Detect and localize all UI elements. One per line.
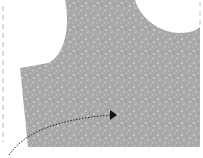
pattern-diagram — [0, 0, 203, 158]
fabric-piece — [20, 0, 200, 147]
